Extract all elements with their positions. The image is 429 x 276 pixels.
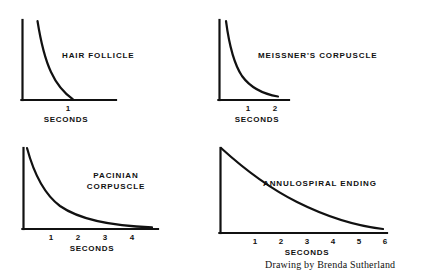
panel-hair-follicle: HAIR FOLLICLE 1 SECONDS [18, 14, 208, 126]
panel-title-line-2: CORPUSCLE [71, 181, 161, 192]
x-tick-label-5: 5 [353, 237, 365, 246]
x-tick-label-6: 6 [379, 237, 391, 246]
panel-title-pacinian-corpuscle: PACINIAN CORPUSCLE [71, 170, 161, 192]
x-tick-label-4: 4 [327, 237, 339, 246]
x-tick-label-1: 1 [249, 237, 261, 246]
x-tick-label-3: 3 [99, 233, 111, 242]
x-tick-label-1: 1 [62, 104, 74, 113]
x-tick-label-3: 3 [301, 237, 313, 246]
x-tick-label-1: 1 [45, 233, 57, 242]
panel-title-line-1: PACINIAN [71, 170, 161, 181]
panel-title-hair-follicle: HAIR FOLLICLE [62, 50, 135, 61]
x-axis-caption: SECONDS [70, 244, 114, 253]
plot-area-hair-follicle [18, 14, 208, 126]
panel-meissners-corpuscle: MEISSNER'S CORPUSCLE 1 2 SECONDS [215, 14, 427, 126]
x-tick-label-2: 2 [72, 233, 84, 242]
x-axis-caption: SECONDS [44, 115, 88, 124]
drawing-credit: Drawing by Brenda Sutherland [265, 259, 395, 270]
panel-title-annulospiral-ending: ANNULOSPIRAL ENDING [263, 178, 377, 189]
x-tick-label-4: 4 [126, 233, 138, 242]
x-tick-label-2: 2 [269, 104, 281, 113]
x-tick-label-1: 1 [242, 104, 254, 113]
receptor-adaptation-figure: HAIR FOLLICLE 1 SECONDS MEISSNER'S CORPU… [0, 0, 429, 276]
x-axis-caption: SECONDS [285, 248, 329, 257]
panel-pacinian-corpuscle: PACINIAN CORPUSCLE 1 2 3 4 SECONDS [18, 142, 218, 262]
x-axis-caption: SECONDS [235, 115, 279, 124]
panel-title-meissners-corpuscle: MEISSNER'S CORPUSCLE [258, 50, 377, 61]
panel-annulospiral-ending: ANNULOSPIRAL ENDING 1 2 3 4 5 6 SECONDS [215, 142, 429, 262]
plot-area-pacinian-corpuscle [18, 142, 218, 262]
plot-area-annulospiral-ending [215, 142, 429, 262]
x-tick-label-2: 2 [275, 237, 287, 246]
